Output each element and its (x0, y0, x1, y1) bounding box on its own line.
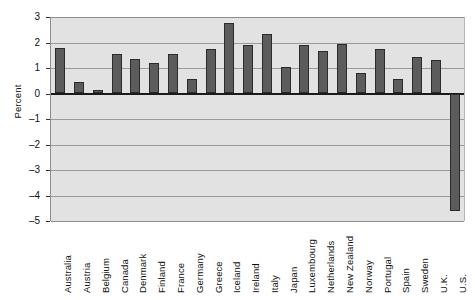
gridline-neg2 (51, 145, 464, 146)
gridline-neg3 (51, 170, 464, 171)
gridline-3 (51, 17, 464, 18)
y-tick-mark (46, 221, 50, 222)
bar (187, 79, 197, 94)
x-tick-label: Iceland (232, 262, 242, 293)
gridline-neg4 (51, 196, 464, 197)
x-tick-label: Netherlands (326, 241, 336, 293)
x-tick-label: Austria (82, 263, 92, 293)
y-tick-label: 3 (8, 12, 40, 22)
bar (450, 94, 460, 211)
x-tick-label: Norway (364, 260, 374, 293)
x-tick-label: Ireland (251, 263, 261, 293)
bar (74, 82, 84, 93)
bar (356, 73, 366, 93)
y-axis-title: Percent (12, 57, 23, 147)
x-tick-label: Luxembourg (307, 239, 317, 293)
x-tick-label: New Zealand (345, 236, 355, 293)
bar (431, 60, 441, 94)
y-tick-label: –5 (8, 216, 40, 226)
x-tick-label: Germany (195, 253, 205, 293)
y-tick-label: 2 (8, 38, 40, 48)
bar (337, 44, 347, 94)
bar (93, 90, 103, 93)
x-tick-label: Italy (270, 275, 280, 293)
x-tick-label: Denmark (138, 254, 148, 293)
bar (168, 54, 178, 93)
x-tick-label: Belgium (101, 258, 111, 293)
bar (281, 67, 291, 93)
x-tick-label: France (176, 263, 186, 293)
plot-area (50, 17, 465, 221)
y-tick-label: –4 (8, 191, 40, 201)
x-tick-label: Japan (289, 267, 299, 293)
x-tick-label: Finland (157, 261, 167, 293)
bar (149, 63, 159, 93)
bar (318, 51, 328, 93)
x-tick-label: Greece (214, 261, 224, 293)
x-tick-label: Spain (401, 268, 411, 293)
x-tick-label: U.K. (439, 274, 449, 293)
bar (299, 45, 309, 93)
bar (262, 34, 272, 94)
bar (206, 49, 216, 94)
x-tick-label: Sweden (420, 258, 430, 293)
y-tick-label: –3 (8, 165, 40, 175)
gridline-2 (51, 43, 464, 44)
gridline-neg1 (51, 119, 464, 120)
bar (130, 59, 140, 94)
bar (55, 48, 65, 93)
bar (112, 54, 122, 94)
bar (412, 57, 422, 93)
x-tick-label: Portugal (383, 257, 393, 293)
gridline-neg5 (51, 221, 464, 222)
x-tick-label: U.S. (458, 274, 468, 293)
x-tick-label: Canada (120, 259, 130, 293)
bar (224, 23, 234, 94)
bar (243, 45, 253, 93)
bar (375, 49, 385, 94)
bar-chart: Percent 3210–1–2–3–4–5 AustraliaAustriaB… (0, 0, 475, 300)
x-tick-label: Australia (63, 255, 73, 293)
bar (393, 79, 403, 94)
